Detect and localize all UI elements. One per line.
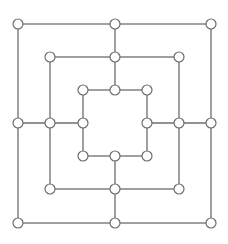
- board-point-a1[interactable]: [13, 19, 23, 29]
- board-point-g2[interactable]: [110, 218, 120, 228]
- board-point-d5[interactable]: [174, 118, 184, 128]
- board-point-e3[interactable]: [142, 151, 152, 161]
- board-point-d1[interactable]: [13, 118, 23, 128]
- board-point-f1[interactable]: [45, 184, 55, 194]
- morris-board: [0, 0, 228, 244]
- board-point-e1[interactable]: [78, 151, 88, 161]
- board-point-g1[interactable]: [13, 218, 23, 228]
- board-point-b2[interactable]: [110, 52, 120, 62]
- board-point-d3[interactable]: [78, 118, 88, 128]
- board-point-b3[interactable]: [174, 52, 184, 62]
- board-point-c1[interactable]: [78, 85, 88, 95]
- board-point-b1[interactable]: [45, 52, 55, 62]
- board-point-f3[interactable]: [174, 184, 184, 194]
- board-point-c3[interactable]: [142, 85, 152, 95]
- inner-square: [83, 90, 147, 156]
- board-point-d2[interactable]: [45, 118, 55, 128]
- board-point-g3[interactable]: [206, 218, 216, 228]
- board-point-d6[interactable]: [206, 118, 216, 128]
- board-point-a2[interactable]: [110, 19, 120, 29]
- board-point-a3[interactable]: [206, 19, 216, 29]
- board-point-f2[interactable]: [110, 184, 120, 194]
- board-point-c2[interactable]: [110, 85, 120, 95]
- board-point-d4[interactable]: [142, 118, 152, 128]
- board-point-e2[interactable]: [110, 151, 120, 161]
